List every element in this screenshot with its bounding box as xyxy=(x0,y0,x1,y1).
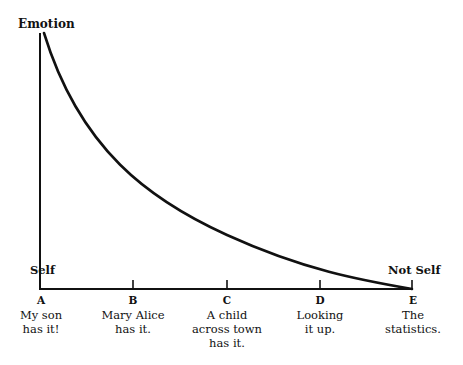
emotion-curve xyxy=(44,33,412,289)
caption-d: Looking it up. xyxy=(297,308,344,336)
caption-e: The statistics. xyxy=(385,308,441,336)
not-self-label: Not Self xyxy=(388,263,440,277)
caption-b: Mary Alice has it. xyxy=(101,308,164,336)
self-label: Self xyxy=(30,263,55,277)
caption-a: My son has it! xyxy=(20,308,62,336)
caption-c: A child across town has it. xyxy=(192,308,262,350)
tick-letter-a: A xyxy=(37,294,45,306)
tick-letter-c: C xyxy=(223,294,231,306)
tick-letter-b: B xyxy=(129,294,138,306)
tick-letter-d: D xyxy=(315,294,324,306)
y-axis-title: Emotion xyxy=(18,17,75,31)
emotion-distance-diagram: Emotion Self Not Self A B C D E My son h… xyxy=(0,0,463,365)
tick-letter-e: E xyxy=(409,294,417,306)
